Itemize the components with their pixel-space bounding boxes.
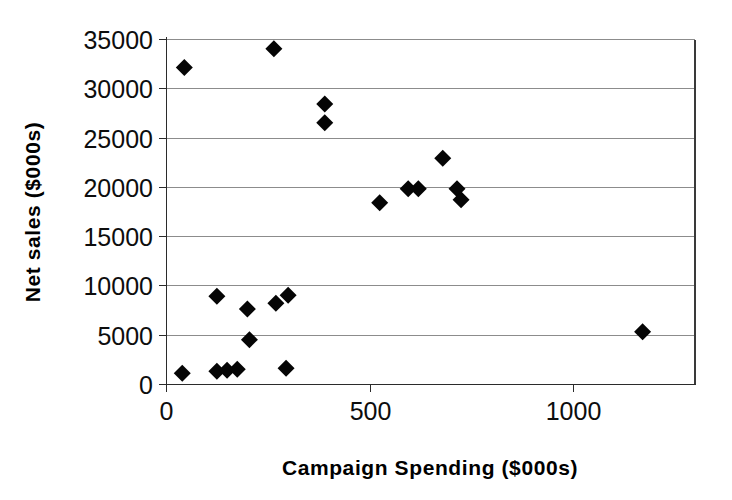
- data-point: [278, 360, 295, 377]
- y-tick-label-25000: 25000: [83, 125, 153, 153]
- x-axis-group: [166, 384, 696, 392]
- y-tick-label-35000: 35000: [83, 26, 153, 54]
- data-point: [241, 331, 258, 348]
- data-point: [371, 194, 388, 211]
- data-point: [176, 59, 193, 76]
- data-point: [634, 323, 651, 340]
- scatter-chart-figure: 05000100001500020000250003000035000 0500…: [0, 0, 732, 500]
- y-tick-label-0: 0: [139, 371, 153, 399]
- data-point: [239, 301, 256, 318]
- chart-canvas: 05000100001500020000250003000035000 0500…: [0, 0, 732, 500]
- y-axis-title: Net sales ($000s): [21, 122, 44, 303]
- x-tick-label-0: 0: [160, 397, 174, 425]
- data-point: [410, 180, 427, 197]
- x-axis-title: Campaign Spending ($000s): [282, 456, 578, 479]
- data-point: [208, 288, 225, 305]
- y-tick-label-10000: 10000: [83, 272, 153, 300]
- y-tick-label-20000: 20000: [83, 174, 153, 202]
- x-tick-label-500: 500: [350, 397, 392, 425]
- y-tick-label-15000: 15000: [83, 223, 153, 251]
- data-point: [434, 150, 451, 167]
- y-tick-marks-group: [159, 40, 166, 385]
- y-tick-label-5000: 5000: [97, 322, 153, 350]
- gridlines-group: [166, 40, 695, 336]
- x-tick-labels-group: 05001000: [160, 397, 602, 425]
- y-axis-group: [159, 37, 167, 392]
- x-tick-label-1000: 1000: [546, 397, 602, 425]
- data-point: [174, 365, 191, 382]
- data-point: [229, 361, 246, 378]
- data-point: [316, 96, 333, 113]
- data-point: [316, 114, 333, 131]
- data-point: [265, 40, 282, 57]
- data-points-group: [174, 40, 651, 381]
- y-tick-label-30000: 30000: [83, 75, 153, 103]
- y-tick-labels-group: 05000100001500020000250003000035000: [83, 26, 153, 399]
